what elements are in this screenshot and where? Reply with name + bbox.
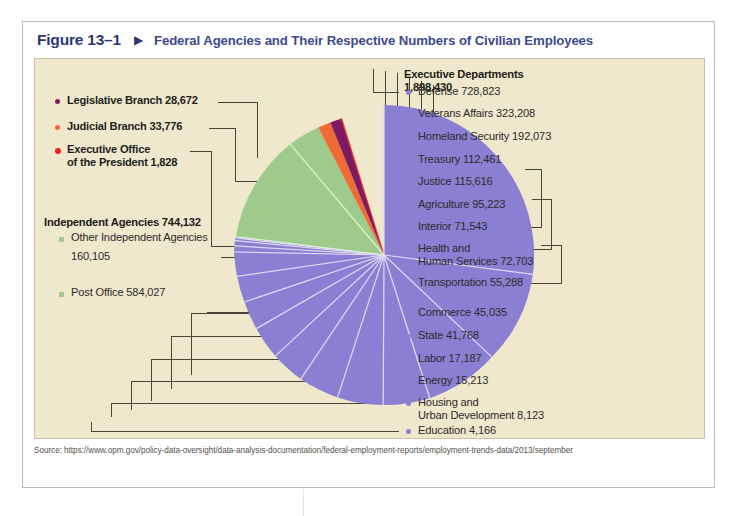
label-justice: Justice 115,616 bbox=[418, 175, 493, 188]
label-other-independent-agencies: Other Independent Agencies bbox=[71, 231, 208, 244]
label-executive-office-line1: Executive Office bbox=[67, 143, 150, 156]
leader-defense bbox=[373, 69, 399, 92]
bullet-interior bbox=[406, 225, 411, 230]
bullet-executive-office bbox=[55, 148, 61, 154]
bullet-commerce bbox=[406, 311, 411, 316]
bullet-homeland-security bbox=[406, 135, 411, 140]
bullet-defense bbox=[406, 90, 411, 95]
label-energy: Energy 15,213 bbox=[418, 374, 488, 387]
pie-chart bbox=[35, 59, 705, 439]
page-fold-artifact bbox=[303, 489, 304, 516]
bullet-transportation bbox=[406, 281, 411, 286]
label-labor: Labor 17,187 bbox=[418, 352, 482, 365]
label-defense: Defense 728,823 bbox=[418, 85, 500, 98]
figure-number: Figure 13–1 bbox=[37, 31, 121, 49]
label-other-independent-agencies-value: 160,105 bbox=[71, 250, 110, 263]
label-state: State 41,768 bbox=[418, 329, 479, 342]
label-interior: Interior 71,543 bbox=[418, 220, 487, 233]
label-executive-office-line2: of the President 1,828 bbox=[67, 156, 177, 169]
bullet-legislative-branch bbox=[55, 99, 60, 104]
bullet-other-independent-agencies bbox=[59, 237, 64, 242]
figure-header: Figure 13–1 ▶ Federal Agencies and Their… bbox=[23, 22, 714, 58]
bullet-justice bbox=[406, 180, 411, 185]
bullet-state bbox=[406, 334, 411, 339]
page-title: Federal Agencies and Their Respective Nu… bbox=[154, 33, 593, 48]
heading-independent-agencies: Independent Agencies 744,132 bbox=[44, 216, 201, 229]
label-post-office: Post Office 584,027 bbox=[71, 286, 165, 299]
label-transportation: Transportation 55,288 bbox=[418, 276, 523, 289]
label-housing-urban-development-line1: Housing and bbox=[418, 396, 479, 409]
bullet-treasury bbox=[406, 158, 411, 163]
leader-legislative bbox=[218, 102, 257, 158]
label-commerce: Commerce 45,035 bbox=[418, 306, 507, 319]
label-judicial-branch: Judicial Branch 33,776 bbox=[67, 120, 182, 133]
leader-education bbox=[91, 422, 399, 431]
label-health-human-services-line2: Human Services 72,703 bbox=[418, 255, 533, 268]
bullet-judicial-branch bbox=[55, 125, 60, 130]
chart-panel: Legislative Branch 28,672 Judicial Branc… bbox=[34, 58, 705, 439]
leader-hud bbox=[111, 403, 399, 417]
bullet-veterans-affairs bbox=[406, 112, 411, 117]
bullet-housing-urban-development bbox=[406, 401, 411, 406]
label-education: Education 4,166 bbox=[418, 424, 496, 437]
label-legislative-branch: Legislative Branch 28,672 bbox=[67, 94, 198, 107]
figure-frame: Figure 13–1 ▶ Federal Agencies and Their… bbox=[22, 21, 715, 488]
label-homeland-security: Homeland Security 192,073 bbox=[418, 130, 551, 143]
bullet-agriculture bbox=[406, 203, 411, 208]
bullet-education bbox=[406, 429, 411, 434]
bullet-post-office bbox=[59, 292, 64, 297]
source-note: Source: https://www.opm.gov/policy-data-… bbox=[34, 446, 705, 455]
label-veterans-affairs: Veterans Affairs 323,208 bbox=[418, 107, 535, 120]
bullet-energy bbox=[406, 379, 411, 384]
bullet-labor bbox=[406, 357, 411, 362]
label-agriculture: Agriculture 95,223 bbox=[418, 198, 505, 211]
label-health-human-services-line1: Health and bbox=[418, 242, 470, 255]
label-treasury: Treasury 112,461 bbox=[418, 153, 501, 166]
triangle-right-icon: ▶ bbox=[134, 34, 143, 46]
bullet-health-human-services bbox=[406, 247, 411, 252]
heading-executive-departments-line1: Executive Departments bbox=[404, 68, 524, 81]
label-housing-urban-development-line2: Urban Development 8,123 bbox=[418, 409, 544, 422]
